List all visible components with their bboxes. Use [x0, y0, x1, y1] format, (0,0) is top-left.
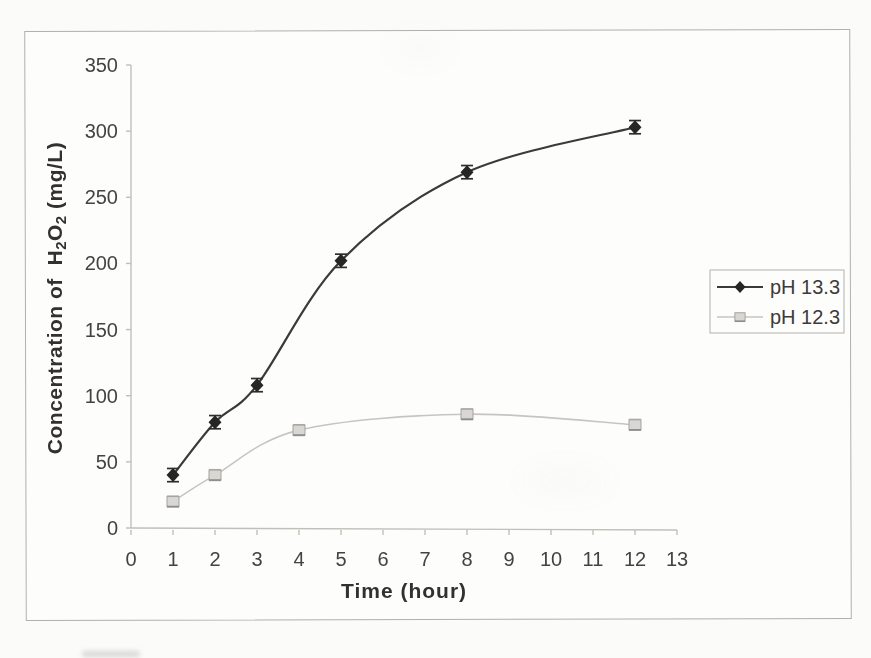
- chart-svg: 050100150200250300350012345678910111213T…: [0, 0, 871, 658]
- series-line-ph-12-3: [173, 414, 635, 501]
- x-axis-title: Time (hour): [341, 579, 467, 602]
- x-tick-label: 8: [461, 548, 472, 570]
- y-tick-label: 350: [85, 54, 118, 76]
- x-tick-label: 2: [209, 548, 220, 570]
- legend-label-ph-12-3: pH 12.3: [770, 306, 840, 328]
- y-tick-label: 50: [96, 451, 118, 473]
- y-tick-label: 300: [85, 120, 118, 142]
- marker-diamond-ph-13-3: [629, 120, 642, 134]
- marker-square-ph-12-3: [629, 420, 641, 430]
- series-line-ph-13-3: [173, 127, 635, 475]
- y-tick-label: 0: [107, 517, 118, 539]
- y-tick-label: 150: [85, 319, 118, 341]
- legend-label-ph-13-3: pH 13.3: [770, 276, 840, 298]
- x-axis-line: [131, 528, 677, 530]
- x-tick-label: 12: [624, 548, 646, 570]
- x-tick-label: 4: [293, 548, 304, 570]
- x-tick-label: 9: [503, 548, 514, 570]
- x-tick-label: 13: [666, 548, 688, 570]
- marker-diamond-ph-13-3: [461, 165, 474, 179]
- x-tick-label: 5: [335, 548, 346, 570]
- x-tick-label: 10: [540, 548, 562, 570]
- y-tick-label: 100: [85, 385, 118, 407]
- marker-square-ph-12-3: [293, 425, 305, 435]
- x-tick-label: 1: [167, 548, 178, 570]
- marker-square-ph-12-3: [461, 409, 473, 419]
- x-tick-label: 0: [125, 548, 136, 570]
- y-tick-label: 200: [85, 252, 118, 274]
- marker-square-ph-12-3: [735, 313, 745, 322]
- marker-square-ph-12-3: [167, 497, 179, 507]
- scanned-page: 050100150200250300350012345678910111213T…: [0, 0, 871, 658]
- x-tick-label: 7: [419, 548, 430, 570]
- y-axis-title: Concentration of H2O2 (mg/L): [43, 142, 69, 454]
- x-tick-label: 3: [251, 548, 262, 570]
- y-tick-label: 250: [85, 186, 118, 208]
- x-tick-label: 11: [583, 548, 604, 570]
- x-tick-label: 6: [377, 548, 388, 570]
- cutoff-caption-smudge: [82, 651, 140, 657]
- marker-square-ph-12-3: [209, 470, 221, 480]
